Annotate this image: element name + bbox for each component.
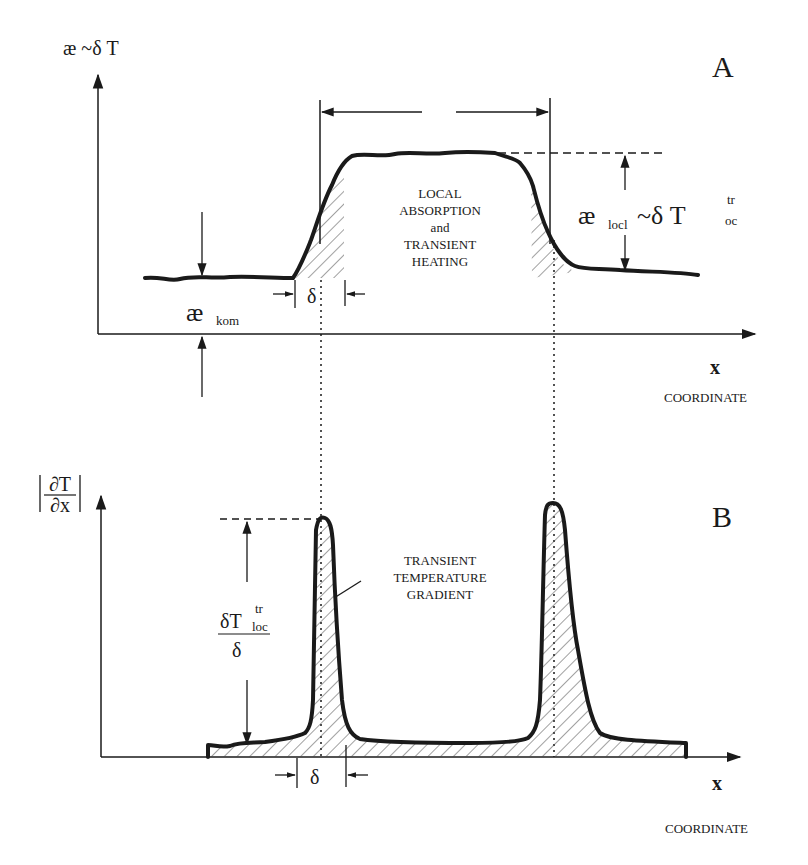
panel-a-step-label: æ locl ~δ T tr oc	[578, 192, 738, 232]
region-text-line: ABSORPTION	[399, 203, 481, 218]
height-denominator: δ	[232, 639, 241, 661]
annotation-line: TRANSIENT	[404, 553, 476, 568]
panel-a-delta-label: δ	[307, 285, 316, 307]
panel-a-baseline-label: æ kom	[186, 298, 239, 328]
baseline-subscript: kom	[216, 313, 239, 328]
panel-b-x-axis-label: x	[712, 772, 722, 794]
region-text-line: HEATING	[412, 254, 468, 269]
panel-b-curve	[208, 503, 686, 757]
step-superscript: tr	[727, 192, 736, 207]
panel-b: ∂T ∂x B x COORDINATE TRANSIENT TEMPERATU…	[40, 473, 748, 836]
panel-b-y-axis-label: ∂T ∂x	[40, 473, 80, 516]
baseline-symbol: æ	[186, 298, 203, 327]
panel-a: æ ~δ T A x COORDINATE LOCAL ABSORPTION a…	[63, 37, 755, 405]
figure: æ ~δ T A x COORDINATE LOCAL ABSORPTION a…	[0, 0, 808, 865]
region-text-line: and	[431, 220, 450, 235]
panel-b-annotation: TRANSIENT TEMPERATURE GRADIENT	[393, 553, 486, 602]
panel-a-y-axis-label: æ ~δ T	[63, 37, 119, 59]
step-subscript: locl	[608, 217, 628, 232]
derivative-numerator: ∂T	[49, 473, 71, 495]
height-numerator: δT	[220, 610, 242, 632]
panel-b-height-label: δT tr loc δ	[218, 601, 270, 661]
derivative-denominator: ∂x	[50, 494, 70, 516]
panel-a-x-axis-label: x	[710, 356, 720, 378]
annotation-line: TEMPERATURE	[393, 570, 486, 585]
region-text-line: TRANSIENT	[404, 237, 476, 252]
height-subscript: loc	[252, 619, 268, 634]
step-subscript-2: oc	[725, 213, 738, 228]
region-text-line: LOCAL	[418, 186, 461, 201]
step-relation: ~δ T	[637, 201, 686, 230]
panel-b-hatched-area	[208, 503, 686, 757]
panel-b-panel-label: B	[712, 500, 732, 533]
panel-b-annotation-leader	[334, 581, 361, 598]
panel-b-x-axis-caption: COORDINATE	[665, 821, 748, 836]
step-symbol: æ	[578, 201, 595, 230]
annotation-line: GRADIENT	[407, 587, 473, 602]
panel-b-delta-label: δ	[310, 766, 319, 788]
height-superscript: tr	[255, 601, 264, 616]
panel-a-region-text: LOCAL ABSORPTION and TRANSIENT HEATING	[399, 186, 481, 269]
panel-a-x-axis-caption: COORDINATE	[664, 390, 747, 405]
panel-a-panel-label: A	[712, 50, 734, 83]
